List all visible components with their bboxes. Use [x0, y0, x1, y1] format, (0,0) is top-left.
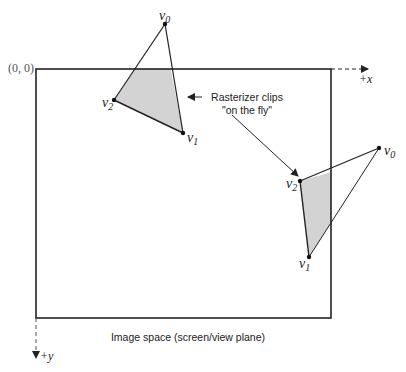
vertex-label-v2-right: v2 [286, 176, 297, 193]
image-space-caption: Image space (screen/view plane) [111, 331, 265, 343]
clipped-region-top [114, 69, 183, 133]
y-axis-label: +y [40, 349, 54, 363]
vertex-label-v1-top: v1 [187, 130, 198, 147]
image-space-rect [36, 69, 331, 318]
vertex-label-v0-top: v0 [159, 8, 170, 25]
vertex-dot [181, 131, 185, 135]
vertex-label-v2-top: v2 [102, 95, 113, 112]
annotation-line2: "on the fly" [222, 104, 272, 116]
origin-label: (0, 0) [8, 61, 34, 75]
vertex-dot [377, 146, 381, 150]
x-axis-label: +x [359, 72, 373, 86]
annotation-arrow-diagonal [232, 115, 298, 176]
vertex-label-v0-right: v0 [384, 143, 395, 160]
annotation-line1: Rasterizer clips [211, 91, 283, 103]
vertex-dot [307, 255, 311, 259]
vertex-dot [298, 179, 302, 183]
clipping-diagram: Rasterizer clips "on the fly" (0, 0) +x … [0, 0, 406, 372]
